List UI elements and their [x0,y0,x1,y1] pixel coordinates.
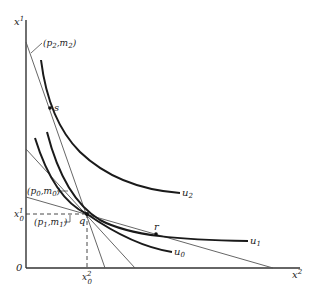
label-p2m2: (p2,m2) [43,38,77,50]
tick-label-x0-2: x20 [82,270,93,286]
label-u2: u2 [182,187,193,200]
label-r: r [154,221,160,232]
point-q [85,212,89,216]
label-q: q [79,215,85,226]
tick-label-x0-1: x10 [14,207,25,223]
label-u0: u0 [174,246,185,259]
point-r [154,232,158,236]
budget-line-p0m0 [26,149,135,268]
label-s: s [54,102,59,113]
point-s [48,106,52,110]
budget-line-p2m2 [26,42,105,268]
leader-p2m2 [31,43,42,53]
y-axis-label: x1 [14,15,24,27]
label-p0m0: (p0,m0) [27,186,61,198]
origin-label: 0 [16,262,23,273]
label-u1: u1 [250,235,261,248]
label-p1m1: (p1,m1) [34,217,68,229]
x-axis-label: x2 [292,268,303,280]
indifference-diagram: x1 x2 0 s q r u2 u1 u0 (p2,m2) (p0,m0) (… [0,0,317,291]
budget-line-p1m1 [26,197,273,268]
